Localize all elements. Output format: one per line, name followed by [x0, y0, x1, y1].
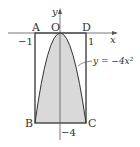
point-c-label: C: [88, 117, 96, 130]
tick-x-neg1: −1: [18, 36, 33, 47]
point-a-label: A: [31, 21, 41, 34]
tick-x-pos1: 1: [88, 36, 94, 47]
point-d-label: D: [82, 21, 91, 34]
x-axis-label: x: [110, 34, 116, 45]
origin-label: O: [51, 21, 60, 34]
y-axis-arrow-icon: [58, 8, 62, 14]
curve-label-leader: [78, 61, 92, 66]
curve-equation-label: y = −4x²: [92, 56, 134, 66]
tick-y-neg4: −4: [61, 127, 76, 138]
y-axis-label: y: [51, 6, 58, 17]
parabola-rectangle-diagram: y x O A D B C −1 1 −4 y = −4x²: [0, 0, 140, 147]
point-b-label: B: [25, 117, 33, 130]
